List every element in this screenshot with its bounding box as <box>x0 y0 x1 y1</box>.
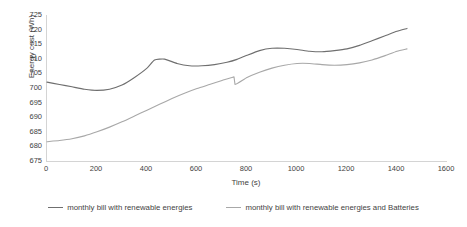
y-axis-tick-label: 690 <box>18 113 42 121</box>
y-axis-tick-label: 685 <box>18 128 42 136</box>
legend-line-swatch-icon <box>226 207 241 208</box>
y-axis-tick-label: 725 <box>18 11 42 19</box>
plot-area <box>46 15 447 162</box>
y-axis-tick-label: 680 <box>18 142 42 150</box>
y-axis-tick-label: 720 <box>18 26 42 34</box>
y-axis-tick-label: 695 <box>18 99 42 107</box>
y-axis-tick-labels: 675680685690695700705710715720725 <box>16 0 42 227</box>
y-axis-tick-label: 700 <box>18 84 42 92</box>
x-axis-tick-label: 200 <box>76 164 116 173</box>
legend-label: monthly bill with renewable energies <box>67 203 192 212</box>
x-axis-tick-labels: 02004006008001000120014001600 <box>46 164 446 176</box>
x-axis-tick-label: 0 <box>26 164 66 173</box>
legend-line-swatch-icon <box>48 207 63 208</box>
x-axis-tick-label: 1400 <box>376 164 416 173</box>
y-axis-tick-label: 715 <box>18 40 42 48</box>
chart-figure: Energy cost (Wh) 67568068569069570070571… <box>0 0 467 227</box>
x-axis-tick-label: 800 <box>226 164 266 173</box>
legend-label: monthly bill with renewable energies and… <box>245 203 418 212</box>
series-lines <box>47 15 447 161</box>
x-axis-tick-label: 1600 <box>426 164 466 173</box>
legend-item-1[interactable]: monthly bill with renewable energies <box>48 203 192 212</box>
chart-legend: monthly bill with renewable energiesmont… <box>0 203 467 212</box>
x-axis-tick-label: 1000 <box>276 164 316 173</box>
y-axis-tick-label: 705 <box>18 69 42 77</box>
series-line-1 <box>47 28 407 90</box>
x-axis-tick-label: 1200 <box>326 164 366 173</box>
x-axis-title: Time (s) <box>46 178 446 187</box>
y-axis-tick-label: 710 <box>18 55 42 63</box>
legend-item-2[interactable]: monthly bill with renewable energies and… <box>226 203 418 212</box>
x-axis-tick-label: 600 <box>176 164 216 173</box>
x-axis-tick-label: 400 <box>126 164 166 173</box>
